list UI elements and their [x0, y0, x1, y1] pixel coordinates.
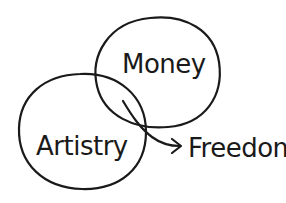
artistry-label: Artistry [36, 131, 128, 161]
money-label: Money [122, 49, 206, 79]
freedom-label: Freedom [188, 133, 286, 163]
venn-diagram: Money Artistry Freedom [0, 0, 286, 203]
